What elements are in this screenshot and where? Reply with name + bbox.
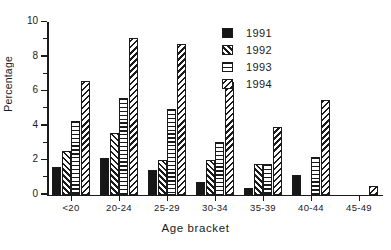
- bar-1992-35-39: [254, 164, 263, 194]
- y-tick-label: 6: [32, 85, 38, 95]
- legend-swatch-1993: [222, 62, 233, 72]
- bar-group: [52, 22, 90, 195]
- legend-swatch-1991: [222, 28, 233, 38]
- legend-label-1992: 1992: [246, 44, 272, 56]
- bar-1993-20-24: [119, 98, 128, 195]
- bar-chart: Percentage 0246810 <2020-2425-2930-3435-…: [0, 0, 391, 250]
- bar-1993-40-44: [311, 157, 320, 195]
- bar-group: [340, 22, 378, 195]
- legend-item-1993: 1993: [222, 58, 272, 75]
- bar-1991-<20: [52, 167, 61, 195]
- legend-item-1991: 1991: [222, 24, 272, 41]
- bar-1993-25-29: [167, 109, 176, 194]
- x-label-25-29: 25-29: [154, 202, 180, 213]
- bar-1991-30-34: [196, 182, 205, 194]
- y-tick-label: 4: [32, 120, 38, 130]
- bar-1994-<20: [81, 81, 90, 195]
- bar-group: [100, 22, 138, 195]
- x-label-<20: <20: [62, 202, 79, 213]
- bar-1991-35-39: [244, 188, 253, 195]
- bar-1994-30-34: [225, 82, 234, 195]
- y-tick-label: 10: [27, 16, 38, 26]
- legend: 1991199219931994: [222, 24, 272, 92]
- x-tick: [71, 196, 72, 201]
- bar-1994-40-44: [321, 100, 330, 195]
- bar-1994-25-29: [177, 44, 186, 195]
- legend-item-1992: 1992: [222, 41, 272, 58]
- x-label-35-39: 35-39: [250, 202, 276, 213]
- bar-1993-35-39: [263, 164, 272, 194]
- x-tick: [359, 196, 360, 201]
- bar-1992-20-24: [110, 133, 119, 194]
- legend-item-1994: 1994: [222, 75, 272, 92]
- bar-group: [292, 22, 330, 195]
- x-tick: [263, 196, 264, 201]
- bar-1992-25-29: [158, 160, 167, 195]
- x-tick: [215, 196, 216, 201]
- y-axis-title: Percentage: [2, 56, 16, 112]
- bar-1992-<20: [62, 151, 71, 194]
- y-tick-label: 8: [32, 51, 38, 61]
- legend-swatch-1992: [222, 45, 233, 55]
- y-tick-label: 2: [32, 154, 38, 164]
- plot-area: 0246810: [47, 22, 383, 196]
- x-label-45-49: 45-49: [346, 202, 372, 213]
- x-label-20-24: 20-24: [106, 202, 132, 213]
- bar-1991-40-44: [292, 175, 301, 195]
- legend-swatch-1994: [222, 79, 233, 89]
- x-label-40-44: 40-44: [298, 202, 324, 213]
- legend-label-1991: 1991: [246, 27, 272, 39]
- bar-1994-45-49: [369, 186, 378, 195]
- bar-groups: [47, 22, 383, 195]
- bar-1993-<20: [71, 121, 80, 194]
- bar-1994-20-24: [129, 38, 138, 194]
- bar-group: [148, 22, 186, 195]
- bar-1993-30-34: [215, 142, 224, 195]
- bar-1991-25-29: [148, 170, 157, 194]
- x-tick: [119, 196, 120, 201]
- legend-label-1993: 1993: [246, 61, 272, 73]
- x-label-30-34: 30-34: [202, 202, 228, 213]
- y-tick-label: 0: [32, 189, 38, 199]
- bar-1991-20-24: [100, 158, 109, 194]
- bar-1994-35-39: [273, 127, 282, 194]
- legend-label-1994: 1994: [246, 78, 272, 90]
- x-tick: [311, 196, 312, 201]
- bar-1992-30-34: [206, 160, 215, 195]
- x-tick: [167, 196, 168, 201]
- x-axis-title: Age bracket: [0, 222, 391, 234]
